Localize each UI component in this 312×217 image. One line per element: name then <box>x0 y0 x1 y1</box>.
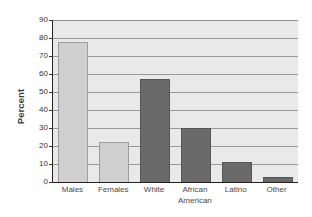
bar-chart: Percent 9080706050403020100 MalesFemales… <box>0 0 312 217</box>
plot-area <box>52 20 298 183</box>
bar <box>58 42 88 182</box>
bar <box>99 142 129 182</box>
bar <box>263 177 293 182</box>
x-tick-label: Males <box>52 185 93 196</box>
y-tick-label: 30 <box>28 124 48 132</box>
y-tick-label: 80 <box>28 34 48 42</box>
y-axis-tick-labels: 9080706050403020100 <box>28 14 48 188</box>
x-tick-label: White <box>134 185 175 196</box>
y-tick-label: 20 <box>28 142 48 150</box>
bars-group <box>53 20 298 182</box>
x-tick-label: Females <box>93 185 134 196</box>
y-tick-label: 10 <box>28 160 48 168</box>
y-tick-label: 90 <box>28 16 48 24</box>
x-axis-tick-labels: MalesFemalesWhiteAfrican AmericanLatinoO… <box>52 185 297 215</box>
y-tick-label: 70 <box>28 52 48 60</box>
x-tick-label: Other <box>256 185 297 196</box>
y-tick-label: 50 <box>28 88 48 96</box>
bar <box>181 128 211 182</box>
y-tick-label: 0 <box>28 178 48 186</box>
y-axis-title: Percent <box>14 76 28 136</box>
x-tick-label: African American <box>175 185 216 206</box>
bar <box>140 79 170 182</box>
bar <box>222 162 252 182</box>
y-tick-label: 40 <box>28 106 48 114</box>
y-axis-title-label: Percent <box>16 88 27 124</box>
y-tickmark <box>49 182 53 183</box>
y-tick-label: 60 <box>28 70 48 78</box>
x-tick-label: Latino <box>215 185 256 196</box>
